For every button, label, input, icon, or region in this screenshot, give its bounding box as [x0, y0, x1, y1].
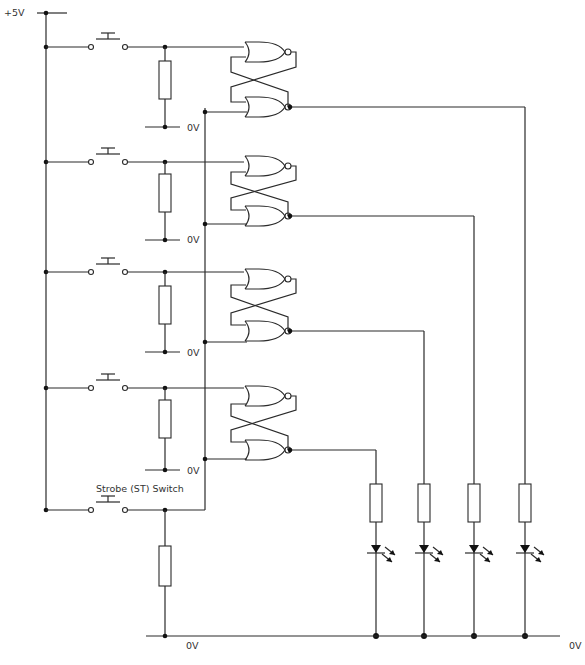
led-4: [516, 545, 544, 562]
supply-rail: [37, 11, 67, 510]
circuit-diagram: [0, 0, 585, 665]
output-channel-1: [367, 450, 395, 639]
pulldown-resistor-2: [159, 174, 171, 212]
led-1: [367, 545, 395, 562]
latch-4: [203, 386, 376, 461]
ground-label-row-1: 0V: [187, 123, 200, 133]
push-switch-2[interactable]: [96, 148, 120, 154]
strobe-switch-label: Strobe (ST) Switch: [96, 484, 184, 494]
pulldown-resistor-3: [159, 286, 171, 324]
strobe-row: [44, 496, 205, 636]
led-3: [465, 545, 493, 562]
ground-label-row-4: 0V: [187, 466, 200, 476]
pulldown-resistor-4: [159, 400, 171, 438]
nor-gate-1b: [245, 97, 291, 117]
push-switch-3[interactable]: [96, 258, 120, 264]
input-row-2: [44, 148, 244, 242]
latch-1: [203, 42, 525, 117]
latch-2: [203, 156, 474, 226]
input-row-4: [44, 374, 244, 472]
ground-label-bottom: 0V: [186, 641, 199, 651]
ground-label-right: 0V: [569, 641, 582, 651]
push-switch-4[interactable]: [96, 374, 120, 380]
input-row-3: [44, 258, 244, 354]
strobe-switch[interactable]: [96, 496, 120, 502]
latch-3: [203, 269, 424, 344]
input-row-1: [44, 33, 244, 129]
output-channel-3: [465, 216, 493, 639]
push-switch-1[interactable]: [96, 33, 120, 39]
nor-gate-1a: [245, 42, 291, 62]
pulldown-resistor-1: [159, 61, 171, 99]
ground-label-row-3: 0V: [187, 348, 200, 358]
ground-label-row-2: 0V: [187, 235, 200, 245]
supply-label: +5V: [4, 8, 25, 18]
strobe-pulldown-resistor: [159, 546, 171, 586]
output-channel-4: [516, 107, 544, 639]
output-channel-2: [415, 331, 443, 639]
led-2: [415, 545, 443, 562]
